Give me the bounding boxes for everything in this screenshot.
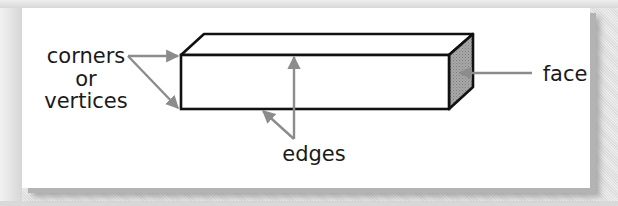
label-or: or [75,67,97,91]
corners-arrows [128,56,178,108]
prism-diagram: corners or vertices edges face [0,0,618,201]
corner-arrow-bottom [128,56,178,108]
label-corners: corners [47,44,125,68]
label-face: face [543,62,588,86]
label-vertices: vertices [44,89,127,113]
top-face [181,34,473,55]
front-face [181,55,449,109]
edge-arrow-diagonal [263,111,294,139]
rectangular-prism [181,34,473,109]
label-edges: edges [282,142,345,166]
